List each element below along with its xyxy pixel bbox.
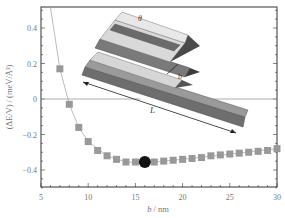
data-point <box>66 101 73 108</box>
data-point <box>236 150 243 157</box>
data-point <box>245 149 252 156</box>
x-tick-label: 30 <box>273 193 281 202</box>
data-point <box>170 157 177 164</box>
data-point <box>85 138 92 145</box>
data-point <box>264 147 271 154</box>
data-point <box>179 156 186 163</box>
b-label: b <box>178 72 182 81</box>
data-point <box>274 145 281 152</box>
data-point <box>189 155 196 162</box>
x-tick-label: 25 <box>226 193 234 202</box>
x-tick-label: 15 <box>131 193 139 202</box>
data-point <box>151 159 158 166</box>
data-point <box>160 158 167 165</box>
y-axis-label: (ΔE/V) / (meV/Å³) <box>4 65 14 130</box>
L-label: L <box>149 105 155 115</box>
data-point <box>113 156 120 163</box>
chart: 51015202530 0.40.20−0.2−0.4 θ b L <box>0 0 285 218</box>
data-point <box>132 159 139 166</box>
minimum-point <box>139 156 151 168</box>
data-point <box>122 159 129 166</box>
x-axis: 51015202530 <box>39 183 281 202</box>
data-point <box>226 151 233 158</box>
x-axis-label: b / nm <box>147 204 169 214</box>
y-tick-label: 0.2 <box>27 60 37 69</box>
x-tick-label: 10 <box>84 193 92 202</box>
y-tick-label: −0.2 <box>22 131 37 140</box>
x-tick-label: 20 <box>179 193 187 202</box>
data-point <box>217 151 224 158</box>
data-point <box>94 147 101 154</box>
y-tick-label: 0.4 <box>27 24 37 33</box>
x-tick-label: 5 <box>39 193 43 202</box>
y-tick-label: 0 <box>33 95 37 104</box>
data-point <box>255 148 262 155</box>
theta-label: θ <box>138 14 142 23</box>
y-tick-label: −0.4 <box>22 166 37 175</box>
data-point <box>104 152 111 159</box>
inset-schematic: θ b L <box>82 12 248 133</box>
data-point <box>207 152 214 159</box>
data-point <box>56 65 63 72</box>
data-point <box>75 124 82 131</box>
data-point <box>198 154 205 161</box>
